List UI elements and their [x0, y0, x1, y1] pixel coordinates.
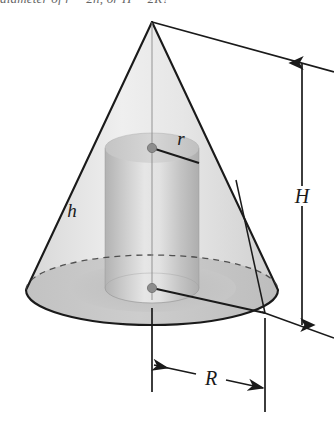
- height-witness-bottom: [262, 312, 334, 338]
- height-witness-top: [152, 22, 334, 72]
- label-cone-radius: R: [204, 367, 217, 389]
- cone-base-center-dot: [147, 283, 156, 292]
- cylinder-height-annotation: h: [67, 200, 77, 221]
- radius-dimension-left: [154, 365, 196, 374]
- radius-dimension-right: [226, 380, 263, 388]
- figure-page: diameter of r = 2h, or H = 2R?: [0, 0, 334, 430]
- label-cylinder-radius: r: [177, 128, 185, 149]
- cylinder-top-center-dot: [147, 143, 156, 152]
- label-cylinder-height: h: [67, 200, 77, 221]
- label-cone-height: H: [294, 185, 311, 207]
- cone-cylinder-diagram: r h H: [0, 0, 334, 430]
